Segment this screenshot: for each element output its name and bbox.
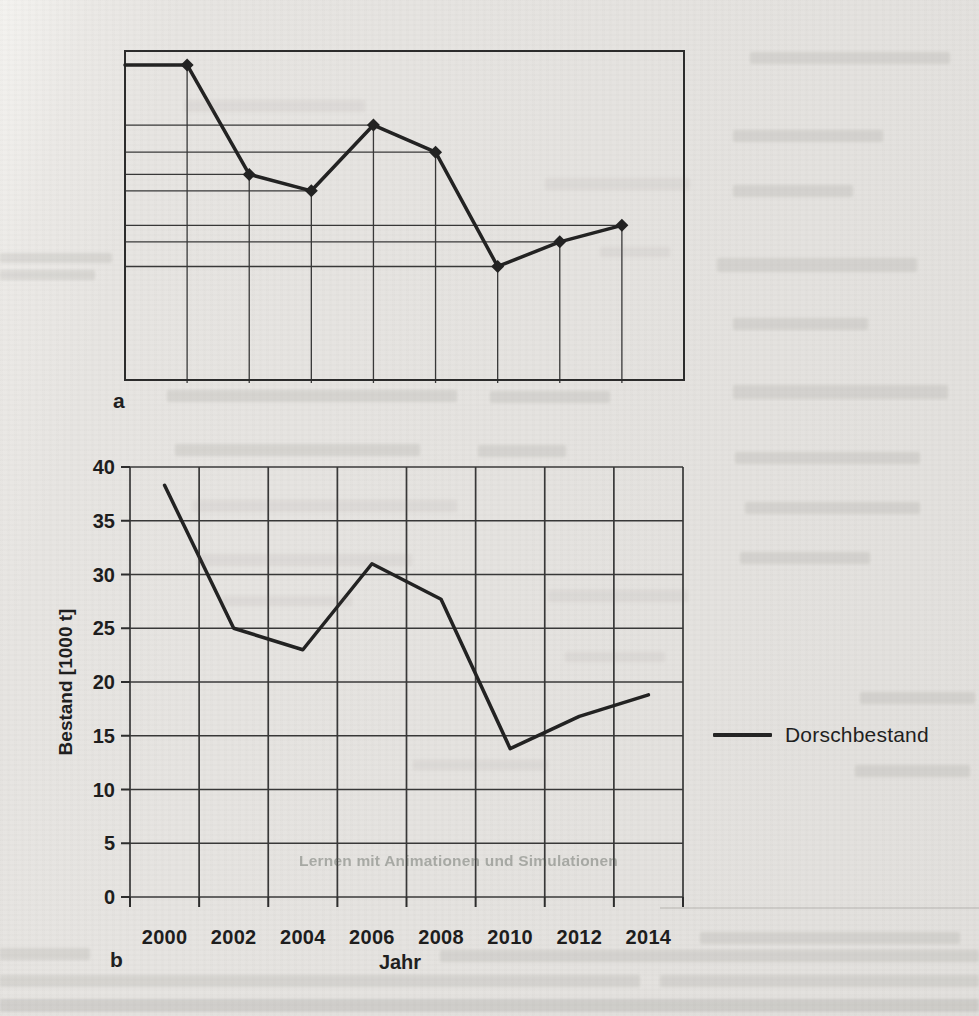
bleed-through-line	[192, 500, 457, 512]
svg-text:2014: 2014	[626, 926, 672, 948]
svg-text:35: 35	[93, 510, 115, 532]
svg-text:5: 5	[104, 832, 115, 854]
bleed-through-line	[0, 270, 95, 280]
bleed-through-line	[0, 975, 640, 987]
bleed-through-line	[700, 932, 960, 944]
bleed-through-line	[735, 452, 920, 464]
legend: Dorschbestand	[713, 723, 929, 747]
bleed-through-section-heading: Lernen mit Animationen und Simulationen	[299, 852, 618, 870]
bleed-through-line	[545, 178, 690, 190]
svg-text:2012: 2012	[556, 926, 602, 948]
bleed-through-line	[440, 950, 979, 962]
bleed-through-line	[733, 130, 883, 142]
bleed-through-line	[733, 385, 948, 399]
bleed-through-line	[600, 247, 670, 257]
bleed-through-line	[745, 502, 920, 514]
bleed-through-line	[548, 590, 688, 602]
bleed-through-line	[413, 760, 548, 770]
bleed-through-line	[750, 52, 950, 64]
bleed-through-line	[860, 692, 975, 704]
bleed-through-line	[717, 258, 917, 272]
panel-b-label: b	[110, 948, 123, 972]
bleed-through-line	[565, 652, 665, 662]
chart-b-line-plot: 0510152025303540200020022004200620082010…	[93, 456, 683, 948]
svg-text:25: 25	[93, 617, 115, 639]
legend-label: Dorschbestand	[785, 723, 929, 747]
svg-text:10: 10	[93, 779, 115, 801]
bleed-through-line	[0, 999, 979, 1012]
bleed-through-line	[197, 554, 412, 566]
x-axis-title: Jahr	[360, 951, 440, 974]
bleed-through-rule	[660, 907, 979, 909]
bleed-through-line	[0, 253, 112, 263]
svg-text:15: 15	[93, 725, 115, 747]
legend-line-sample	[713, 733, 772, 737]
bleed-through-line	[167, 390, 457, 402]
bleed-through-line	[660, 975, 979, 987]
svg-text:2000: 2000	[142, 926, 188, 948]
svg-text:2004: 2004	[280, 926, 326, 948]
bleed-through-line	[185, 100, 365, 112]
bleed-through-line	[478, 445, 566, 457]
bleed-through-line	[222, 596, 352, 606]
svg-text:2006: 2006	[349, 926, 395, 948]
scanned-book-page: 0510152025303540200020022004200620082010…	[0, 0, 979, 1016]
panel-a-label: a	[113, 389, 125, 413]
bleed-through-line	[733, 318, 868, 330]
bleed-through-line	[740, 552, 870, 564]
svg-text:40: 40	[93, 456, 115, 478]
svg-text:20: 20	[93, 671, 115, 693]
bleed-through-line	[175, 444, 420, 456]
svg-text:2002: 2002	[211, 926, 257, 948]
bleed-through-line	[490, 391, 610, 403]
svg-text:2010: 2010	[487, 926, 533, 948]
bleed-through-line	[733, 185, 853, 197]
svg-text:30: 30	[93, 564, 115, 586]
bleed-through-line	[0, 948, 90, 960]
svg-text:0: 0	[104, 886, 115, 908]
svg-text:2008: 2008	[418, 926, 464, 948]
bleed-through-line	[855, 765, 970, 777]
y-axis-title: Bestand [1000 t]	[55, 609, 77, 756]
